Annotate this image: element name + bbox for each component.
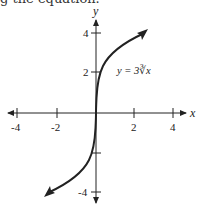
curve-arrow-up-icon: [137, 29, 148, 40]
svg-text:y = 3∛x: y = 3∛x: [116, 64, 151, 76]
x-tick-label-neg2: -2: [51, 121, 60, 133]
equation-label: y = 3∛x: [116, 64, 151, 76]
y-tick-label-neg4: -4: [78, 186, 88, 198]
cube-root-graph: -4 -2 2 4 4 2 -4 x y y = 3∛x: [0, 0, 201, 205]
x-axis-label: x: [189, 106, 196, 120]
curve-arrow-down-icon: [44, 186, 55, 197]
x-tick-label-neg4: -4: [11, 121, 21, 133]
x-tick-label-2: 2: [131, 121, 137, 133]
y-axis-label: y: [92, 4, 99, 18]
x-tick-label-4: 4: [170, 121, 176, 133]
y-tick-label-2: 2: [83, 66, 89, 78]
y-tick-label-4: 4: [83, 27, 89, 39]
